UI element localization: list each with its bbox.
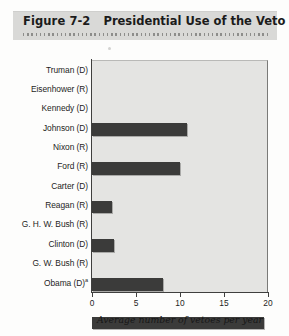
bar-row: Clinton (D): [0, 234, 289, 253]
bar-category-label: Truman (D): [2, 65, 92, 75]
x-axis-tick-label: 20: [263, 298, 272, 308]
bar-row: Ford (R): [0, 157, 289, 176]
x-axis-tick: [224, 292, 225, 297]
bar-category-label: Reagan (R): [2, 200, 92, 210]
bar-row: Eisenhower (R): [0, 79, 289, 98]
bar-row: Nixon (R): [0, 137, 289, 156]
bar-row: G. H. W. Bush (R): [0, 215, 289, 234]
x-axis-tick: [92, 292, 93, 297]
x-axis-title: Average number of vetoes per year: [92, 314, 268, 325]
bar-category-label: Kennedy (D): [2, 103, 92, 113]
bar-category-label: Ford (R): [2, 161, 92, 171]
bar-row: G. W. Bush (R): [0, 253, 289, 272]
bar-row: Johnson (D): [0, 118, 289, 137]
bar-row: Carter (D): [0, 176, 289, 195]
x-axis-tick: [180, 292, 181, 297]
bar-category-label: Clinton (D): [2, 239, 92, 249]
bar-category-label: Obama (D)a: [2, 277, 92, 288]
footnote-marker: a: [85, 277, 88, 283]
figure-page: Figure 7-2 Presidential Use of the Veto …: [0, 0, 289, 336]
bar-row: Reagan (R): [0, 195, 289, 214]
page-speck: [108, 47, 111, 50]
bar-category-label: Eisenhower (R): [2, 84, 92, 94]
x-axis-tick-label: 15: [219, 298, 228, 308]
x-axis-tick: [136, 292, 137, 297]
x-axis-tick-label: 10: [175, 298, 184, 308]
bar-category-label: G. W. Bush (R): [2, 258, 92, 268]
x-axis-tick-label: 5: [134, 298, 139, 308]
x-axis-tick-label: 0: [90, 298, 95, 308]
x-axis-tick: [268, 292, 269, 297]
bar-category-label: G. H. W. Bush (R): [2, 219, 92, 229]
bar-category-label: Nixon (R): [2, 142, 92, 152]
veto-bar-chart: Truman (D)Eisenhower (R)Kennedy (D)Johns…: [0, 0, 289, 336]
bar-category-label: Johnson (D): [2, 123, 92, 133]
bar-row: Obama (D)a: [0, 273, 289, 292]
bar-category-label: Carter (D): [2, 181, 92, 191]
bar-row: Kennedy (D): [0, 99, 289, 118]
bar-row: Truman (D): [0, 60, 289, 79]
